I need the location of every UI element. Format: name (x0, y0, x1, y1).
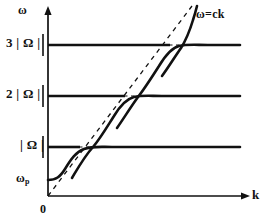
y-tick-label-omega-p: ωp (16, 172, 30, 184)
y-axis-arrowhead-icon (44, 6, 51, 15)
light-line-asymptote (48, 6, 192, 196)
branch-3-upper-curve (117, 45, 240, 128)
y-tick-label-2omega: 2 | Ω | (6, 87, 41, 100)
y-tick-label-1omega: | Ω | (20, 138, 44, 151)
branch-2-middle-curve (72, 96, 240, 178)
y-axis-label: ω (18, 4, 27, 16)
light-line-equation-label: ω=ck (196, 8, 225, 20)
y-tick-label-3omega: 3 | Ω | (6, 36, 41, 49)
omega-p-subscript: p (25, 177, 30, 186)
dispersion-branches-group (48, 6, 240, 180)
x-axis-arrowhead-icon (241, 192, 250, 199)
omega-p-base: ω (16, 171, 25, 185)
x-axis-label: k (252, 188, 260, 201)
branch-1-lower-curve (48, 147, 240, 180)
light-line-dashed-segment (48, 6, 192, 196)
plot-canvas (0, 0, 273, 222)
dispersion-relation-figure: ω k 3 | Ω | 2 | Ω | | Ω | ωp 0 ω=ck (0, 0, 273, 222)
origin-label: 0 (40, 203, 46, 215)
branch-4-top-curve (162, 6, 197, 76)
